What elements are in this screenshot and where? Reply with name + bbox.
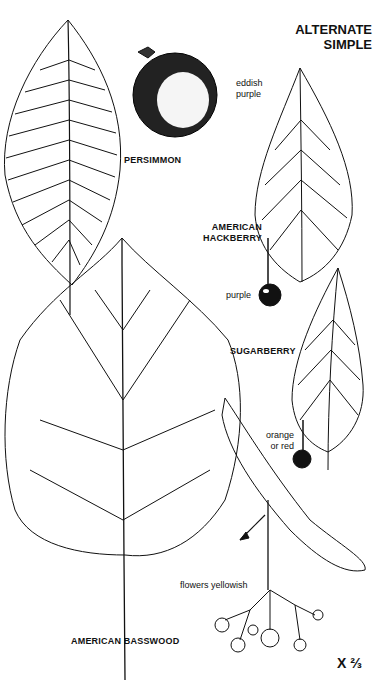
note-line: eddish: [236, 78, 263, 89]
sugarberry-leaf: [292, 268, 363, 470]
note-line: orange: [266, 430, 294, 441]
title-line-2: SIMPLE: [295, 37, 372, 52]
hackberry-label: AMERICAN HACKBERRY: [203, 222, 262, 244]
note-line: or red: [266, 441, 294, 452]
scale-indicator: X ⅔: [337, 655, 362, 671]
persimmon-leaf: [4, 20, 120, 315]
basswood-flower-note: flowers yellowish: [180, 580, 248, 591]
label-line: HACKBERRY: [203, 233, 262, 244]
title-line-1: ALTERNATE: [295, 22, 372, 37]
note-line: purple: [236, 89, 263, 100]
plate-title: ALTERNATE SIMPLE: [295, 22, 372, 52]
basswood-leaf: [5, 238, 240, 680]
sugarberry-fruit-note: orange or red: [266, 430, 294, 452]
label-line: AMERICAN: [203, 222, 262, 233]
persimmon-label: PERSIMMON: [124, 155, 181, 166]
persimmon-fruit: [133, 47, 217, 137]
basswood-label: AMERICAN BASSWOOD: [71, 636, 179, 647]
hackberry-fruit-note: purple: [226, 290, 251, 301]
persimmon-fruit-note: eddish purple: [236, 78, 263, 100]
basswood-bract: [222, 398, 365, 590]
basswood-flower-cluster: [215, 590, 323, 652]
sugarberry-label: SUGARBERRY: [230, 346, 296, 357]
